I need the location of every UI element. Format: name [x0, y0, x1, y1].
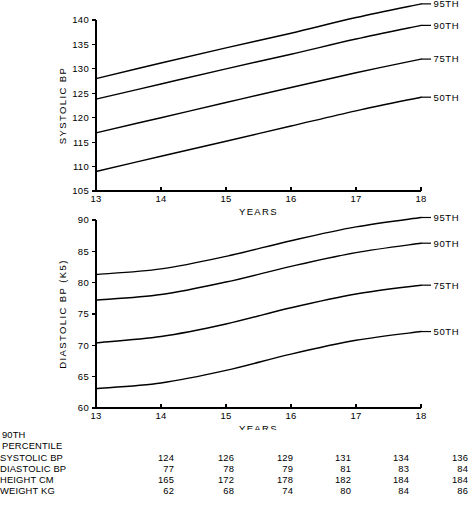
- table-row-label: SYSTOLIC BP: [0, 452, 112, 463]
- series-label-90th: 90TH: [434, 20, 460, 31]
- table-cell: 74: [234, 485, 293, 496]
- percentile-curve: [96, 59, 421, 133]
- table-row: WEIGHT KG626874808486: [0, 485, 468, 496]
- table-cell: 86: [409, 485, 468, 496]
- percentile-curve: [96, 25, 421, 99]
- x-tick-label: 13: [90, 410, 101, 421]
- table-cell: 62: [112, 485, 174, 496]
- series-label-75th: 75TH: [434, 53, 460, 64]
- x-tick-label: 16: [285, 410, 296, 421]
- table-title-line2: PERCENTILE: [2, 441, 468, 452]
- y-tick-label: 105: [72, 185, 89, 196]
- x-tick-label: 17: [350, 193, 361, 204]
- series-label-90th: 90TH: [434, 238, 460, 249]
- table-cell: 124: [112, 452, 174, 463]
- y-axis-title: DIASTOLIC BP (K5): [57, 259, 68, 369]
- x-tick-label: 14: [155, 410, 166, 421]
- table-cell: 78: [174, 463, 234, 474]
- y-tick-label: 110: [73, 161, 89, 172]
- x-tick-label: 18: [415, 193, 426, 204]
- percentile-curve: [96, 332, 421, 389]
- x-axis-title: YEARS: [239, 423, 278, 430]
- diastolic-bp-chart: 60657075808590131415161718YEARSDIASTOLIC…: [0, 215, 468, 430]
- x-tick-label: 14: [155, 193, 166, 204]
- table-cell: 84: [409, 463, 468, 474]
- x-tick-label: 17: [350, 410, 361, 421]
- y-axis-title: SYSTOLIC BP: [57, 67, 68, 145]
- x-tick-label: 15: [220, 193, 231, 204]
- table-cell: 81: [293, 463, 351, 474]
- table-row-label: DIASTOLIC BP: [0, 463, 112, 474]
- table-cell: 184: [351, 474, 409, 485]
- table-cell: 178: [234, 474, 293, 485]
- y-tick-label: 130: [72, 63, 89, 74]
- series-label-50th: 50TH: [434, 92, 460, 103]
- series-label-95th: 95TH: [434, 215, 460, 223]
- y-tick-label: 135: [72, 39, 89, 50]
- diastolic-chart-svg: 60657075808590131415161718YEARSDIASTOLIC…: [0, 215, 468, 430]
- table-row: DIASTOLIC BP777879818384: [0, 463, 468, 474]
- x-tick-label: 16: [285, 193, 296, 204]
- table-cell: 68: [174, 485, 234, 496]
- systolic-bp-chart: 105110115120125130135140131415161718YEAR…: [0, 0, 468, 215]
- series-label-75th: 75TH: [434, 280, 460, 291]
- table-cell: 131: [293, 452, 351, 463]
- y-tick-label: 60: [78, 402, 89, 413]
- table-cell: 172: [174, 474, 234, 485]
- table-cell: 136: [409, 452, 468, 463]
- x-tick-label: 15: [220, 410, 231, 421]
- percentile-curve: [96, 217, 421, 274]
- table-grid: SYSTOLIC BP124126129131134136DIASTOLIC B…: [0, 452, 468, 496]
- table-cell: 126: [174, 452, 234, 463]
- y-tick-label: 65: [78, 371, 89, 382]
- table-cell: 134: [351, 452, 409, 463]
- table-cell: 182: [293, 474, 351, 485]
- series-label-95th: 95TH: [434, 0, 460, 9]
- y-tick-label: 90: [78, 215, 89, 225]
- table-row: SYSTOLIC BP124126129131134136: [0, 452, 468, 463]
- table-row-label: HEIGHT CM: [0, 474, 112, 485]
- table-cell: 84: [351, 485, 409, 496]
- x-tick-label: 13: [90, 193, 101, 204]
- x-axis-title: YEARS: [239, 206, 278, 215]
- y-tick-label: 70: [78, 340, 89, 351]
- bp-percentile-figure: 105110115120125130135140131415161718YEAR…: [0, 0, 468, 514]
- y-tick-label: 125: [72, 88, 89, 99]
- y-tick-label: 120: [72, 112, 89, 123]
- table-cell: 83: [351, 463, 409, 474]
- table-title-line1: 90TH: [2, 430, 468, 441]
- y-tick-label: 140: [72, 14, 89, 25]
- table-cell: 184: [409, 474, 468, 485]
- table-title: 90TH PERCENTILE: [2, 430, 468, 452]
- table-cell: 79: [234, 463, 293, 474]
- table-row-label: WEIGHT KG: [0, 485, 112, 496]
- table-cell: 129: [234, 452, 293, 463]
- y-tick-label: 85: [78, 246, 89, 257]
- percentile-curve: [96, 97, 421, 171]
- table-cell: 165: [112, 474, 174, 485]
- percentile-curve: [96, 285, 421, 343]
- series-label-50th: 50TH: [434, 326, 460, 337]
- table-row: HEIGHT CM165172178182184184: [0, 474, 468, 485]
- systolic-chart-svg: 105110115120125130135140131415161718YEAR…: [0, 0, 468, 215]
- table-cell: 77: [112, 463, 174, 474]
- y-tick-label: 115: [73, 137, 89, 148]
- x-tick-label: 18: [415, 410, 426, 421]
- table-cell: 80: [293, 485, 351, 496]
- y-tick-label: 80: [78, 277, 89, 288]
- percentile-curve: [96, 4, 421, 79]
- y-tick-label: 75: [78, 308, 89, 319]
- percentile-data-table: 90TH PERCENTILE SYSTOLIC BP1241261291311…: [0, 430, 468, 514]
